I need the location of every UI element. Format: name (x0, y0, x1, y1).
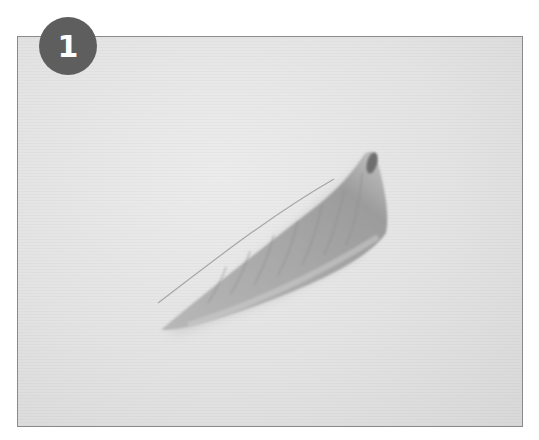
step-number-badge: 1 (39, 17, 97, 75)
step-number: 1 (58, 29, 79, 64)
fish-fillet-image (18, 37, 523, 427)
step-photo (17, 36, 523, 427)
